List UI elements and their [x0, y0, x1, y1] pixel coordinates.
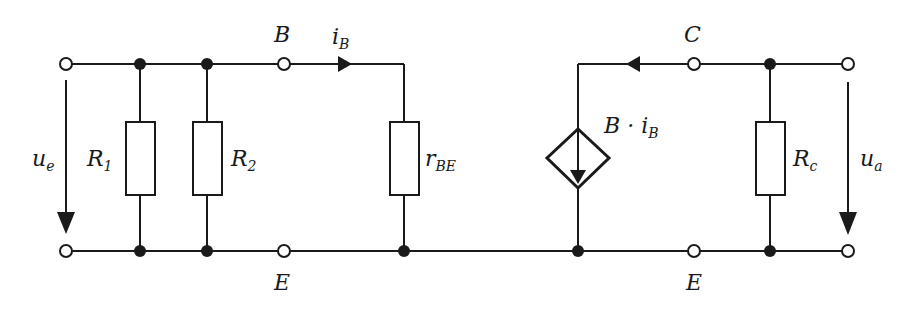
output-terminal-top: [842, 58, 854, 70]
ib-arrowhead: [338, 56, 352, 72]
junction-node: [398, 245, 410, 257]
label-output-voltage: ua: [860, 146, 883, 174]
ue-arrowhead: [57, 212, 75, 234]
label-r2: R2: [230, 146, 257, 174]
resistor-r2: [193, 122, 222, 195]
label-collector: C: [684, 22, 701, 47]
label-rbe: rBE: [425, 146, 456, 174]
label-emitter-right: E: [685, 270, 702, 295]
resistor-rc: [756, 122, 785, 195]
junction-node: [134, 245, 146, 257]
output-terminal-bottom: [842, 245, 854, 257]
collector-current-arrowhead: [626, 56, 640, 72]
base-terminal: [278, 58, 290, 70]
junction-node: [201, 58, 213, 70]
label-rc: Rc: [792, 146, 818, 174]
emitter-terminal-left: [278, 245, 290, 257]
junction-node: [764, 58, 776, 70]
input-terminal-top: [60, 58, 72, 70]
circuit-diagram: B E C E iB ue ua R1 R2 rBE Rc B · iB: [0, 0, 915, 312]
label-r1: R1: [86, 146, 113, 174]
emitter-terminal-right: [688, 245, 700, 257]
label-emitter-left: E: [273, 270, 290, 295]
resistor-r1: [126, 122, 155, 195]
input-terminal-bottom: [60, 245, 72, 257]
junction-node: [764, 245, 776, 257]
label-dependent-source: B · iB: [603, 113, 658, 141]
label-input-voltage: ue: [32, 146, 54, 174]
junction-node: [201, 245, 213, 257]
collector-terminal: [688, 58, 700, 70]
junction-node: [134, 58, 146, 70]
label-base: B: [273, 22, 290, 47]
resistor-rbe: [390, 122, 419, 195]
label-base-current: iB: [332, 24, 349, 52]
junction-node: [572, 245, 584, 257]
ua-arrowhead: [839, 212, 857, 235]
